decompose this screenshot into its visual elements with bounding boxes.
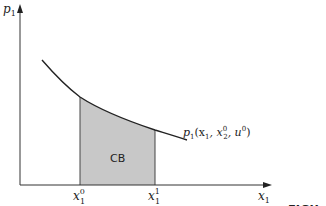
cb-label: CB	[110, 152, 125, 165]
x-axis-arrow-icon	[263, 182, 272, 188]
cb-shaded-area	[80, 97, 155, 185]
y-axis-arrow-icon	[17, 4, 23, 13]
x1-1-tick-label: x11	[148, 187, 160, 206]
figure-caption: FIGU satec	[288, 175, 323, 206]
x-axis-label: x1	[258, 189, 270, 205]
consumer-benefit-diagram: p1 x1 CB p1(x1, x02, u0) x01 x11	[0, 0, 326, 206]
caption-line-1: FIGU	[288, 203, 323, 206]
x1-0-tick-label: x01	[73, 187, 85, 206]
demand-curve-label: p1(x1, x02, u0)	[183, 125, 250, 141]
y-axis-label: p1	[3, 2, 16, 18]
